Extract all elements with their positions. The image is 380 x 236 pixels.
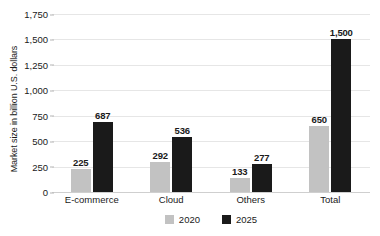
bar-wrapper: 225 <box>71 14 91 192</box>
bar-wrapper: 292 <box>150 14 170 192</box>
y-axis-tick-mark <box>50 141 54 142</box>
x-axis-label-e-commerce: E-commerce <box>52 194 132 205</box>
bar-e-commerce-2025[interactable] <box>93 122 113 192</box>
bar-cloud-2020[interactable] <box>150 162 170 192</box>
bar-group-bars: 225687 <box>52 14 132 192</box>
y-axis-tick-label: 500 <box>4 136 48 147</box>
legend-swatch-2025 <box>222 215 231 224</box>
y-axis-tick-mark <box>50 192 54 193</box>
bar-group: 225687 <box>52 14 132 192</box>
bar-group: 6501,500 <box>291 14 371 192</box>
bar-others-2025[interactable] <box>252 164 272 192</box>
bar-others-2020[interactable] <box>230 178 250 192</box>
plot-area: 2256872925361332776501,500 <box>52 14 370 192</box>
bar-value-label: 536 <box>175 125 190 136</box>
legend-swatch-2020 <box>165 215 174 224</box>
y-axis-tick-mark <box>50 39 54 40</box>
y-axis-tick-label: 0 <box>4 187 48 198</box>
bar-value-label: 133 <box>232 166 247 177</box>
legend-item-2020[interactable]: 2020 <box>165 214 200 225</box>
bar-group-bars: 292536 <box>132 14 212 192</box>
legend-label-2020: 2020 <box>179 214 200 225</box>
bar-value-label: 687 <box>95 110 110 121</box>
y-axis-tick-mark <box>50 167 54 168</box>
bar-groups: 2256872925361332776501,500 <box>52 14 370 192</box>
x-axis-label-others: Others <box>211 194 291 205</box>
bar-wrapper: 687 <box>93 14 113 192</box>
legend-item-2025[interactable]: 2025 <box>222 214 257 225</box>
gridline <box>52 192 370 193</box>
bar-group-bars: 6501,500 <box>291 14 371 192</box>
bar-wrapper: 1,500 <box>331 14 351 192</box>
bar-wrapper: 536 <box>172 14 192 192</box>
y-axis-tick-mark <box>50 65 54 66</box>
bar-wrapper: 133 <box>230 14 250 192</box>
y-axis-tick-label: 1,500 <box>4 34 48 45</box>
y-axis-tick-label: 250 <box>4 161 48 172</box>
y-axis-tick-label: 750 <box>4 110 48 121</box>
bar-value-label: 292 <box>153 150 168 161</box>
y-axis-tick-mark <box>50 90 54 91</box>
bar-chart: Market size in billion U.S. dollars 2256… <box>0 0 380 236</box>
y-axis-tick-mark <box>50 116 54 117</box>
bar-value-label: 650 <box>312 114 327 125</box>
x-axis-labels: E-commerceCloudOthersTotal <box>52 194 370 205</box>
bar-value-label: 225 <box>73 157 88 168</box>
bar-group-bars: 133277 <box>211 14 291 192</box>
bar-value-label: 277 <box>254 152 269 163</box>
bar-cloud-2025[interactable] <box>172 137 192 192</box>
y-axis-tick-label: 1,750 <box>4 9 48 20</box>
bar-value-label: 1,500 <box>330 27 353 38</box>
legend-label-2025: 2025 <box>236 214 257 225</box>
y-axis-tick-label: 1,250 <box>4 59 48 70</box>
y-axis-tick-mark <box>50 14 54 15</box>
x-axis-label-cloud: Cloud <box>132 194 212 205</box>
bar-group: 292536 <box>132 14 212 192</box>
bar-wrapper: 650 <box>309 14 329 192</box>
bar-e-commerce-2020[interactable] <box>71 169 91 192</box>
y-axis-tick-label: 1,000 <box>4 85 48 96</box>
bar-total-2020[interactable] <box>309 126 329 192</box>
x-axis-label-total: Total <box>291 194 371 205</box>
bar-total-2025[interactable] <box>331 39 351 192</box>
legend: 20202025 <box>52 214 370 225</box>
bar-wrapper: 277 <box>252 14 272 192</box>
bar-group: 133277 <box>211 14 291 192</box>
